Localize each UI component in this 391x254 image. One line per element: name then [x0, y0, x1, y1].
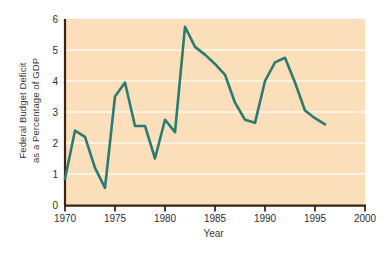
y-axis-tick-label: 6 — [52, 14, 58, 25]
y-axis-tick-label: 3 — [52, 107, 58, 118]
y-axis-tick-label: 0 — [52, 200, 58, 211]
x-axis-tick-label: 1990 — [254, 213, 277, 224]
x-axis-tick-label: 1975 — [104, 213, 127, 224]
y-axis-tick-labels: 0123456 — [52, 14, 58, 211]
x-axis-tick-label: 1985 — [204, 213, 227, 224]
chart-plot-svg: 1970197519801985199019952000 0123456 — [0, 0, 391, 254]
y-axis-tick-label: 2 — [52, 138, 58, 149]
y-axis-tick-label: 1 — [52, 169, 58, 180]
x-axis-tick-labels: 1970197519801985199019952000 — [54, 213, 377, 224]
x-axis-tick-label: 2000 — [354, 213, 377, 224]
x-axis-tick-label: 1995 — [304, 213, 327, 224]
y-axis-tick-label: 5 — [52, 45, 58, 56]
x-axis-tick-label: 1980 — [154, 213, 177, 224]
y-axis-tick-label: 4 — [52, 76, 58, 87]
x-axis-tick-label: 1970 — [54, 213, 77, 224]
x-axis-title: Year — [0, 228, 391, 239]
chart-figure: Federal Budget Deficit as a Percentage o… — [0, 0, 391, 254]
x-axis-title-text: Year — [167, 228, 223, 239]
